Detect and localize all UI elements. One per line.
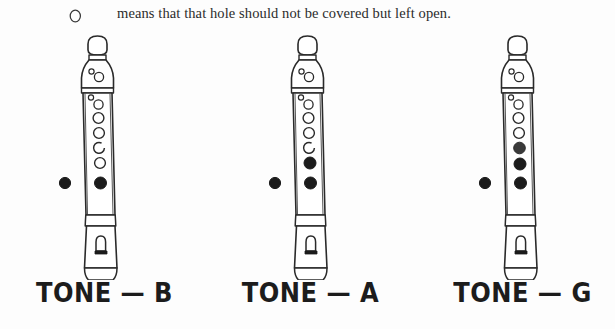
finger-hole-5-closed bbox=[515, 177, 527, 189]
head-large-hole bbox=[514, 72, 523, 81]
tone-label-g: TONE — G bbox=[427, 278, 615, 308]
finger-hole-5-closed bbox=[305, 177, 317, 189]
tone-label-a: TONE — A bbox=[215, 278, 406, 308]
finger-hole-3-closed bbox=[514, 142, 526, 154]
finger-hole-1 bbox=[303, 113, 314, 124]
finger-hole-2 bbox=[94, 128, 105, 139]
recorder-diagram-b bbox=[0, 30, 205, 280]
foot-window-lip bbox=[95, 251, 107, 254]
tone-label-row: TONE — B TONE — A TONE — G bbox=[0, 278, 615, 329]
foot-window bbox=[306, 236, 316, 251]
foot-window bbox=[516, 236, 526, 251]
foot-window bbox=[96, 236, 106, 251]
head-small-hole bbox=[89, 69, 94, 74]
finger-hole-4-closed bbox=[514, 158, 526, 170]
legend-row: means that that hole should not be cover… bbox=[0, 0, 615, 34]
open-circle-icon bbox=[69, 9, 82, 23]
body-small-hole bbox=[508, 95, 513, 100]
foot-window-lip bbox=[515, 251, 527, 254]
body-large-hole bbox=[514, 100, 523, 109]
body-large-hole bbox=[94, 100, 103, 109]
finger-hole-1 bbox=[93, 113, 104, 124]
finger-hole-2 bbox=[304, 128, 315, 139]
finger-hole-4-closed bbox=[304, 157, 316, 169]
recorder-diagram-row bbox=[0, 30, 615, 280]
foot-window-lip bbox=[305, 251, 317, 254]
tone-label-b: TONE — B bbox=[9, 278, 200, 308]
body-small-hole bbox=[298, 95, 303, 100]
recorder-illustration bbox=[420, 30, 615, 280]
thumb-hole-dot bbox=[269, 177, 280, 188]
recorder-diagram-a bbox=[210, 30, 415, 280]
legend-description: means that that hole should not be cover… bbox=[117, 5, 451, 22]
finger-hole-5-closed bbox=[95, 177, 107, 189]
finger-hole-1 bbox=[513, 113, 524, 124]
head-large-hole bbox=[94, 72, 103, 81]
head-small-hole bbox=[299, 69, 304, 74]
thumb-hole-dot bbox=[59, 177, 70, 188]
body-large-hole bbox=[304, 100, 313, 109]
recorder-illustration bbox=[210, 30, 415, 280]
head-large-hole bbox=[304, 72, 313, 81]
body-small-hole bbox=[88, 95, 93, 100]
head-small-hole bbox=[509, 69, 514, 74]
finger-hole-4 bbox=[95, 158, 106, 169]
thumb-hole-dot bbox=[479, 177, 490, 188]
recorder-diagram-g bbox=[420, 30, 615, 280]
recorder-illustration bbox=[0, 30, 205, 280]
finger-hole-2 bbox=[514, 128, 525, 139]
